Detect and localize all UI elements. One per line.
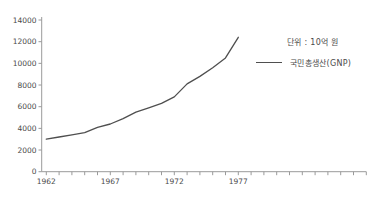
y-tick-label: 4000 <box>17 124 36 133</box>
y-tick-label: 12000 <box>13 37 37 46</box>
y-tick-label: 6000 <box>17 102 36 111</box>
x-tick-label: 1977 <box>229 177 248 186</box>
legend-line-sample-icon <box>256 62 282 63</box>
y-tick-label: 8000 <box>17 81 36 90</box>
page-container: 0200040006000800010000120001400019621967… <box>0 0 381 201</box>
y-tick-label: 0 <box>32 167 37 176</box>
x-tick-label: 1972 <box>165 177 184 186</box>
unit-note: 단위 : 10억 원 <box>287 36 339 47</box>
series-line <box>46 37 238 139</box>
y-tick-label: 14000 <box>13 16 37 25</box>
legend-series-label: 국민총생산(GNP) <box>290 57 351 68</box>
x-tick-label: 1962 <box>37 177 56 186</box>
y-tick-label: 2000 <box>17 146 36 155</box>
legend: 국민총생산(GNP) <box>256 57 351 68</box>
y-tick-label: 10000 <box>13 59 37 68</box>
gnp-line-chart: 0200040006000800010000120001400019621967… <box>0 0 381 201</box>
x-tick-label: 1967 <box>101 177 120 186</box>
